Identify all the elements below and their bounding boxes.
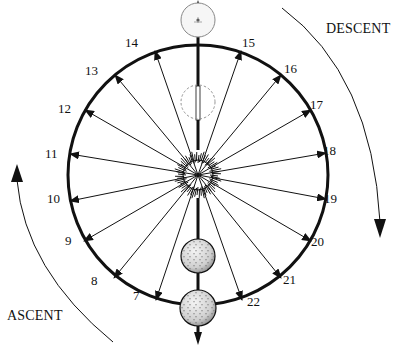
point-label-18: 18 <box>323 144 336 157</box>
point-label-7: 7 <box>133 289 140 302</box>
spoke-arrow-22 <box>198 175 242 300</box>
point-label-22: 22 <box>247 295 260 308</box>
bottom-sphere-texture <box>181 291 215 325</box>
spoke-arrow-9 <box>84 175 198 241</box>
descent-arc <box>282 8 380 222</box>
burst-ray <box>201 188 202 196</box>
point-label-15: 15 <box>242 36 255 49</box>
middle-sphere-texture <box>182 240 214 272</box>
burst-ray <box>195 154 196 162</box>
burst-ray <box>211 172 219 173</box>
spoke-arrow-10 <box>70 175 198 201</box>
point-label-17: 17 <box>310 98 323 111</box>
point-label-21: 21 <box>283 273 296 286</box>
burst-ray <box>178 174 186 175</box>
spoke-arrow-15 <box>198 51 241 175</box>
ascent-label: ASCENT <box>7 309 63 323</box>
point-label-14: 14 <box>125 36 138 49</box>
point-label-19: 19 <box>324 192 337 205</box>
point-label-16: 16 <box>284 62 297 75</box>
point-label-9: 9 <box>65 234 72 247</box>
spoke-arrow-19 <box>198 175 326 199</box>
burst-ray <box>198 155 199 163</box>
ascent-arrowhead-icon <box>11 164 23 182</box>
descent-label: DESCENT <box>326 22 390 36</box>
burst-ray <box>177 178 185 179</box>
point-label-20: 20 <box>311 235 324 248</box>
spoke-arrow-20 <box>198 175 311 241</box>
burst-ray <box>210 175 218 176</box>
point-label-13: 13 <box>85 64 98 77</box>
burst-ray <box>197 187 198 195</box>
point-label-8: 8 <box>91 274 98 287</box>
cycle-diagram <box>0 0 393 347</box>
spoke-arrow-7 <box>156 175 198 300</box>
point-label-12: 12 <box>58 102 71 115</box>
axis-bottom-arrowhead-icon <box>194 332 202 345</box>
axis-hollow-section <box>196 86 200 120</box>
spoke-arrow-14 <box>155 51 198 175</box>
point-label-11: 11 <box>45 147 58 160</box>
point-label-10: 10 <box>47 192 60 205</box>
descent-arrowhead-icon <box>374 219 386 238</box>
